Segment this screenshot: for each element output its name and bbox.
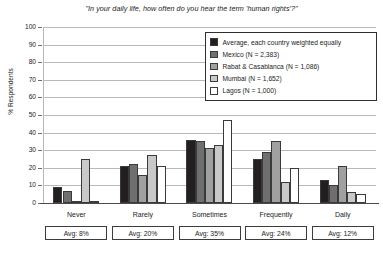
y-axis-tick-label: 10 — [0, 181, 36, 188]
bar — [271, 141, 280, 203]
legend-swatch-icon — [210, 75, 218, 83]
y-axis-tick-label: 0 — [0, 199, 36, 206]
y-axis-tick-mark — [38, 62, 42, 63]
y-axis-tick-label: 40 — [0, 129, 36, 136]
bar — [356, 194, 365, 203]
y-axis-tick-label: 60 — [0, 93, 36, 100]
bar — [196, 141, 205, 203]
y-axis-tick-label: 20 — [0, 164, 36, 171]
legend-swatch-icon — [210, 63, 218, 71]
legend-item[interactable]: Average, each country weighted equally — [210, 36, 372, 48]
bar-group — [43, 27, 110, 203]
bar — [138, 175, 147, 203]
legend-item[interactable]: Lagos (N = 1,000) — [210, 85, 372, 97]
bar — [72, 201, 81, 203]
legend-swatch-icon — [210, 51, 218, 59]
bar — [186, 140, 195, 203]
bar — [81, 159, 90, 203]
y-axis-tick-label: 30 — [0, 146, 36, 153]
bar — [214, 145, 223, 203]
x-axis-category-label: Frequently — [243, 211, 310, 218]
y-axis-tick-mark — [38, 97, 42, 98]
y-axis-tick-mark — [38, 168, 42, 169]
bar — [329, 185, 338, 203]
y-axis-tick-mark — [38, 150, 42, 151]
y-axis-tick-label: 80 — [0, 58, 36, 65]
bar — [157, 166, 166, 203]
bar — [253, 159, 262, 203]
bar — [147, 155, 156, 203]
legend-swatch-icon — [210, 87, 218, 95]
x-axis-category-label: Daily — [309, 211, 376, 218]
bar — [53, 187, 62, 203]
average-box: Avg: 24% — [245, 226, 307, 240]
y-axis-tick-label: 90 — [0, 41, 36, 48]
legend-label: Mexico (N = 2,383) — [223, 51, 280, 58]
x-axis-category-label: Sometimes — [176, 211, 243, 218]
legend-label: Mumbai (N = 1,652) — [223, 75, 282, 82]
bar — [281, 182, 290, 203]
bar-group — [110, 27, 177, 203]
legend-label: Rabat & Casablanca (N = 1,086) — [223, 63, 320, 70]
y-axis-tick-mark — [38, 133, 42, 134]
bar — [262, 152, 271, 203]
legend-label: Average, each country weighted equally — [223, 39, 341, 46]
bar — [129, 164, 138, 203]
legend-swatch-icon — [210, 38, 218, 46]
bar — [205, 148, 214, 203]
average-box: Avg: 35% — [179, 226, 241, 240]
bar — [320, 180, 329, 203]
bar — [90, 201, 99, 203]
x-axis-line — [40, 203, 379, 204]
bar — [63, 191, 72, 203]
chart-title: "In your daily life, how often do you he… — [0, 4, 383, 13]
y-axis-tick-mark — [38, 45, 42, 46]
y-axis-tick-mark — [38, 80, 42, 81]
bar — [120, 166, 129, 203]
bar — [338, 166, 347, 203]
legend-item[interactable]: Mexico (N = 2,383) — [210, 48, 372, 60]
legend-item[interactable]: Mumbai (N = 1,652) — [210, 73, 372, 85]
average-box: Avg: 8% — [45, 226, 107, 240]
bar — [290, 168, 299, 203]
y-axis-tick-label: 50 — [0, 111, 36, 118]
y-axis-tick-mark — [38, 115, 42, 116]
y-axis-tick-mark — [38, 185, 42, 186]
chart-legend: Average, each country weighted equallyMe… — [205, 32, 377, 101]
average-box: Avg: 20% — [112, 226, 174, 240]
y-axis-tick-label: 70 — [0, 76, 36, 83]
x-axis-category-label: Never — [43, 211, 110, 218]
bar — [347, 192, 356, 203]
average-box: Avg: 12% — [312, 226, 374, 240]
y-axis-tick-label: 100 — [0, 23, 36, 30]
y-axis-tick-mark — [38, 27, 42, 28]
bar — [223, 120, 232, 203]
x-axis-category-label: Rarely — [110, 211, 177, 218]
legend-label: Lagos (N = 1,000) — [223, 87, 277, 94]
chart-container: "In your daily life, how often do you he… — [0, 0, 383, 263]
legend-item[interactable]: Rabat & Casablanca (N = 1,086) — [210, 60, 372, 72]
